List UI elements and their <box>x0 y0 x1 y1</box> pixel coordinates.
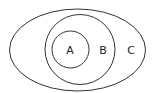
set-c-ellipse <box>10 9 146 91</box>
set-b-label: B <box>99 44 107 57</box>
set-a-label: A <box>66 44 74 57</box>
set-c-label: C <box>127 44 135 57</box>
nested-venn-diagram: A B C <box>0 0 153 93</box>
